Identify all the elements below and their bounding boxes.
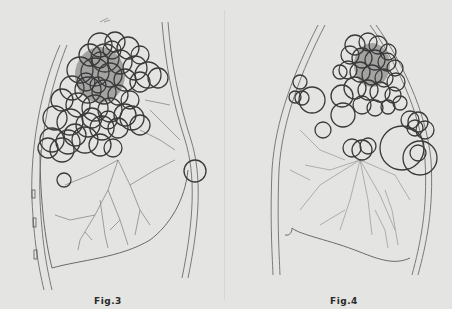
lesion-circle — [130, 115, 150, 135]
lesion-circle — [57, 173, 71, 187]
lesion-circle — [403, 141, 437, 175]
lesion-circle — [295, 91, 309, 105]
lesion-circle — [315, 122, 331, 138]
lesion-circle — [40, 128, 64, 152]
lesion-circle — [89, 134, 111, 156]
lesion-circles-layer — [0, 0, 452, 309]
lesion-circle — [352, 140, 372, 160]
lesion-circle — [345, 35, 365, 55]
lesion-circle — [43, 106, 67, 130]
lesion-circle — [184, 160, 206, 182]
lesion-circle — [331, 85, 353, 107]
lesion-circle — [104, 139, 122, 157]
fig3-lesion-circles — [38, 32, 206, 187]
lesion-circle — [131, 46, 149, 64]
lesion-circle — [130, 72, 150, 92]
scanned-plate: Fig.3 — [0, 0, 452, 309]
lesion-circle — [50, 138, 74, 162]
lesion-circle — [360, 138, 376, 154]
lesion-circle — [299, 87, 325, 113]
fig4-lesion-circles — [289, 33, 437, 175]
lesion-circle — [380, 126, 424, 170]
lesion-circle — [293, 75, 307, 89]
lesion-circle — [370, 82, 390, 102]
lesion-circle — [148, 68, 168, 88]
